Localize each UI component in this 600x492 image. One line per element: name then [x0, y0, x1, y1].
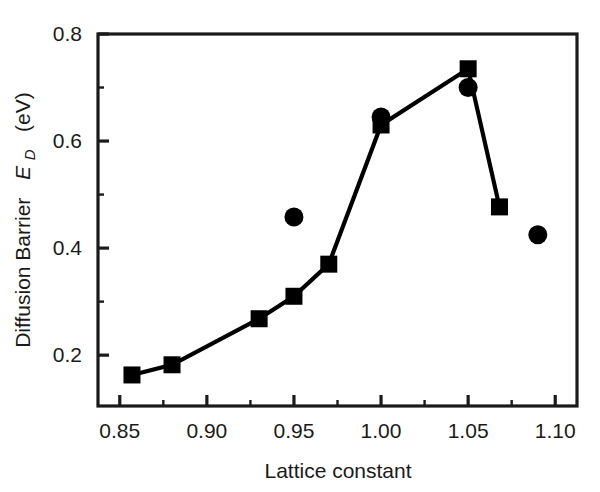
data-point-square	[491, 198, 508, 215]
figure-container: 0.850.900.951.001.051.10 0.20.40.60.8 La…	[0, 0, 600, 492]
x-tick-label: 1.10	[535, 419, 576, 442]
x-tick-label: 0.95	[274, 419, 315, 442]
x-tick-label: 1.00	[361, 419, 402, 442]
y-axis-title-subscript: D	[21, 149, 38, 160]
x-tick-label: 0.85	[99, 419, 140, 442]
data-point-square	[320, 256, 337, 273]
x-tick-label: 1.05	[448, 419, 489, 442]
data-point-square	[164, 356, 181, 373]
data-point-square	[123, 366, 140, 383]
data-point-circle	[459, 78, 478, 97]
x-tick-label: 0.90	[186, 419, 227, 442]
data-point-circle	[372, 107, 391, 126]
y-tick-label: 0.2	[53, 343, 82, 366]
data-point-square	[460, 60, 477, 77]
y-axis-title-units: (eV)	[11, 92, 34, 132]
x-axis-title: Lattice constant	[264, 459, 411, 482]
data-point-square	[285, 288, 302, 305]
y-tick-label: 0.8	[53, 22, 82, 45]
data-point-square	[251, 310, 268, 327]
data-point-circle	[284, 208, 303, 227]
y-tick-label: 0.4	[53, 236, 83, 259]
data-point-circle	[528, 225, 547, 244]
diffusion-barrier-chart: 0.850.900.951.001.051.10 0.20.40.60.8 La…	[0, 0, 600, 492]
y-axis-title-main: Diffusion Barrier	[11, 198, 34, 348]
y-tick-label: 0.6	[53, 129, 82, 152]
y-axis-title-symbol: E	[11, 165, 34, 180]
